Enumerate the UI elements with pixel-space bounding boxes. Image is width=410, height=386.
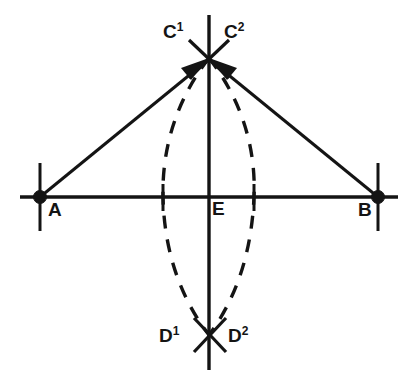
- point-label-C2: C2: [224, 22, 244, 41]
- construction-diagram: A B E C1 C2 D1 D2: [0, 0, 410, 386]
- point-label-A: A: [48, 200, 62, 219]
- point-label-D2: D2: [228, 326, 248, 345]
- vertex-dot-B: [372, 191, 385, 204]
- point-label-C1: C1: [163, 22, 183, 41]
- point-label-E: E: [212, 199, 225, 218]
- diagram-canvas: [0, 0, 410, 386]
- ray-B-to-C: [220, 68, 378, 197]
- ray-A-to-C: [40, 68, 198, 197]
- point-label-D1: D1: [159, 326, 179, 345]
- point-label-B: B: [358, 200, 372, 219]
- vertex-dot-A: [34, 191, 47, 204]
